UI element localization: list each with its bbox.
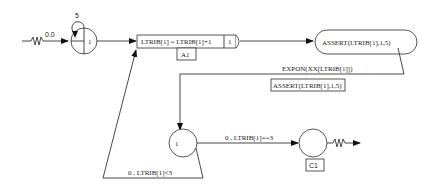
create-max-label: 5: [75, 12, 79, 19]
collect-tag: C1: [309, 162, 318, 169]
edge-goon-collect: 0 , LTRIB[1]==3: [197, 134, 298, 143]
input-time-label: 0.0: [45, 31, 55, 38]
collect-node[interactable]: C1: [299, 129, 360, 171]
exit-condition: 0 , LTRIB[1]==3: [225, 134, 273, 142]
assign-node[interactable]: LTRIB[1] = LTRIB[1]+1 1 A1: [137, 35, 239, 60]
create-node-label: 1: [88, 38, 92, 46]
assign-expression: LTRIB[1] = LTRIB[1]+1: [141, 38, 212, 46]
goon-node[interactable]: 1: [169, 129, 197, 157]
resistor-zigzag-icon: [31, 37, 43, 45]
edge-goon-assign-loop: 0 , LTRIB[1]<3: [103, 50, 203, 178]
source-input: 0.0: [22, 31, 68, 45]
goon-label: 1: [175, 140, 179, 148]
create-node[interactable]: 1 5: [71, 12, 97, 54]
activity-node[interactable]: ASSERT(LTRIB[1],1,5): [315, 30, 417, 54]
network-diagram: 0.0 1 5 LTRIB[1] = LTRIB[1]+1 1 A1 ASSER…: [0, 0, 426, 190]
assign-count: 1: [228, 38, 232, 46]
assert-box-label: ASSERT(LTRIB[1],1,5): [273, 82, 342, 90]
expon-label: EXPON(XX[LTRIB[1]]): [282, 65, 353, 73]
activity-expression: ASSERT(LTRIB[1],1,5): [322, 39, 391, 47]
loop-condition: 0 , LTRIB[1]<3: [128, 169, 172, 177]
diagram-svg: 0.0 1 5 LTRIB[1] = LTRIB[1]+1 1 A1 ASSER…: [0, 0, 426, 190]
assign-tag: A1: [181, 51, 190, 59]
sink-zigzag-icon: [333, 139, 345, 147]
edge-activity-goon: EXPON(XX[LTRIB[1]]) ASSERT(LTRIB[1],1,5): [180, 48, 404, 130]
